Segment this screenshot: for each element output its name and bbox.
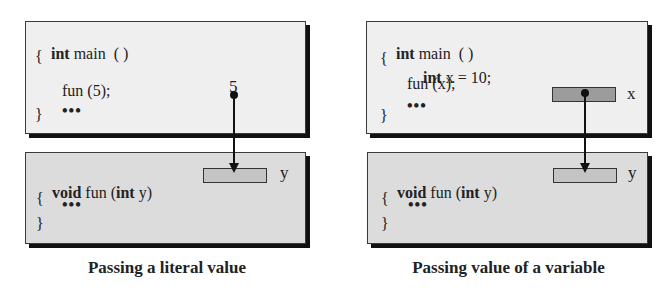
close-brace: } <box>380 107 388 125</box>
fun-signature: void fun (int y) <box>381 166 497 220</box>
close-brace: } <box>36 215 44 233</box>
left-main-function-box: int main ( ) { fun (5); } ••• 5 <box>25 21 306 134</box>
open-brace: { <box>35 48 43 66</box>
copy-arrow-line <box>584 93 586 165</box>
ellipsis: ••• <box>408 196 428 214</box>
function-call: fun (5); <box>62 82 110 100</box>
close-brace: } <box>35 106 43 124</box>
param-y-label: y <box>280 164 289 182</box>
ellipsis: ••• <box>62 102 82 120</box>
param-y-label: y <box>628 164 637 182</box>
right-caption: Passing value of a variable <box>366 258 651 278</box>
ellipsis: ••• <box>407 97 427 115</box>
copy-arrow-line <box>233 95 235 165</box>
open-brace: { <box>380 50 388 68</box>
variable-x-label: x <box>627 85 636 103</box>
left-fun-function-box: void fun (int y) { ••• } <box>25 152 306 244</box>
left-caption: Passing a literal value <box>25 258 309 278</box>
right-fun-function-box: void fun (int y) { ••• } <box>367 152 648 244</box>
fun-signature: void fun (int y) <box>36 166 152 220</box>
arrow-head-icon <box>580 163 590 173</box>
arrow-head-icon <box>229 163 239 173</box>
open-brace: { <box>381 190 389 208</box>
ellipsis: ••• <box>62 196 82 214</box>
close-brace: } <box>381 215 389 233</box>
function-call: fun (x); <box>407 75 455 93</box>
right-main-function-box: int main ( ) { int x = 10; fun (x); ••• … <box>366 21 648 134</box>
main-signature: int main ( ) <box>35 27 128 81</box>
open-brace: { <box>36 190 44 208</box>
